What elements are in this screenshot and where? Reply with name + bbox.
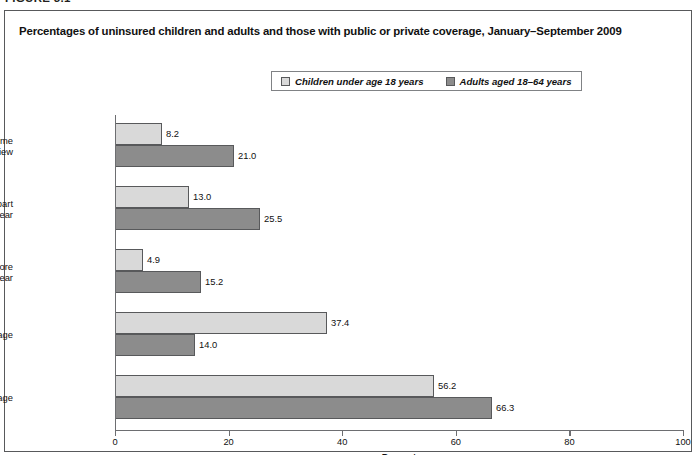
category-label-line: Private coverage (0, 392, 13, 403)
x-axis-tick-label-60: 60 (451, 437, 461, 447)
category-label-uninsured-at-least-part-of-year: Uninsured at least part of the year (0, 198, 13, 220)
bar-children-private-coverage (115, 375, 434, 397)
legend-item-children: Children under age 18 years (281, 76, 424, 87)
x-axis-tick-40 (342, 431, 343, 436)
legend-label-children: Children under age 18 years (295, 76, 424, 87)
bar-adults-uninsured-more-than-a-year (115, 271, 201, 293)
bar-value-children-uninsured-more-than-a-year: 4.9 (147, 249, 160, 271)
figure-panel: Percentages of uninsured children and ad… (4, 10, 692, 452)
x-axis-tick-60 (456, 431, 457, 436)
x-axis-tick-label-40: 40 (337, 437, 347, 447)
bar-adults-uninsured-at-least-part-of-year (115, 208, 260, 230)
legend-label-adults: Adults aged 18–64 years (460, 76, 572, 87)
x-axis-tick-20 (229, 431, 230, 436)
category-label-public-coverage: Public coverage (0, 329, 13, 340)
category-label-private-coverage: Private coverage (0, 392, 13, 403)
chart-legend: Children under age 18 years Adults aged … (271, 71, 582, 91)
x-axis-line (115, 430, 684, 431)
x-axis-tick-0 (115, 431, 116, 436)
bar-adults-private-coverage (115, 397, 492, 419)
legend-swatch-children-icon (281, 77, 290, 86)
x-axis-tick-label-20: 20 (223, 437, 233, 447)
bar-children-uninsured-at-time-of-interview (115, 123, 162, 145)
category-label-line: of interview (0, 146, 13, 157)
legend-swatch-adults-icon (446, 77, 455, 86)
bar-adults-public-coverage (115, 334, 195, 356)
category-label-line: Public coverage (0, 329, 13, 340)
x-axis-tick-100 (683, 431, 684, 436)
x-axis-tick-label-0: 0 (112, 437, 117, 447)
category-label-line: Uninsured at the time (0, 135, 13, 146)
category-label-line: than a year (0, 272, 13, 283)
bar-adults-uninsured-at-time-of-interview (115, 145, 234, 167)
bar-value-adults-uninsured-at-time-of-interview: 21.0 (238, 145, 256, 167)
x-axis-tick-label-80: 80 (564, 437, 574, 447)
bar-children-uninsured-more-than-a-year (115, 249, 143, 271)
bar-value-children-public-coverage: 37.4 (331, 312, 349, 334)
x-axis-tick-label-100: 100 (675, 437, 691, 447)
category-label-uninsured-more-than-a-year: Uninsured for more than a year (0, 261, 13, 283)
figure-number-label: FIGURE 3.1 (5, 0, 71, 4)
bar-value-adults-uninsured-more-than-a-year: 15.2 (205, 271, 223, 293)
page-title: Percentages of uninsured children and ad… (19, 25, 669, 37)
category-label-line: of the year (0, 209, 13, 220)
bar-children-public-coverage (115, 312, 327, 334)
category-label-line: Uninsured at least part (0, 198, 13, 209)
y-axis-line (115, 115, 116, 431)
bar-value-adults-public-coverage: 14.0 (199, 334, 217, 356)
x-axis-tick-80 (569, 431, 570, 436)
x-axis-title: Percent (115, 451, 683, 455)
category-label-uninsured-at-time-of-interview: Uninsured at the time of interview (0, 135, 13, 157)
bar-value-adults-uninsured-at-least-part-of-year: 25.5 (264, 208, 282, 230)
category-label-line: Uninsured for more (0, 261, 13, 272)
figure-container: FIGURE 3.1 Percentages of uninsured chil… (0, 0, 696, 455)
bar-value-children-uninsured-at-least-part-of-year: 13.0 (193, 186, 211, 208)
bar-value-children-private-coverage: 56.2 (438, 375, 456, 397)
legend-item-adults: Adults aged 18–64 years (446, 76, 572, 87)
bar-value-children-uninsured-at-time-of-interview: 8.2 (166, 123, 179, 145)
bar-children-uninsured-at-least-part-of-year (115, 186, 189, 208)
bar-value-adults-private-coverage: 66.3 (496, 397, 514, 419)
